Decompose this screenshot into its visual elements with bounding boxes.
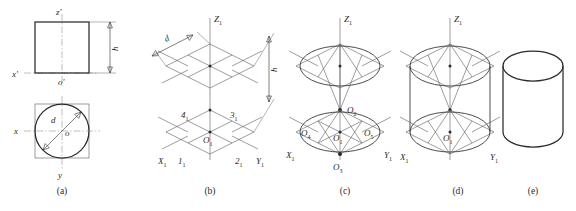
- label-z1-b: Z1: [214, 14, 222, 26]
- dim-line-d-b: [152, 35, 193, 56]
- top-center-dot: [209, 65, 212, 68]
- mid-center-dot: [209, 109, 212, 112]
- top-constr-4-c: [340, 44, 362, 77]
- top-axis-stub-left: [158, 51, 188, 66]
- label-x1-b: X1: [157, 156, 167, 168]
- top-axis-stub-right: [232, 51, 262, 66]
- o3-dot-c: [338, 152, 342, 156]
- label-point-4-b: 41: [181, 110, 189, 122]
- label-x1-c: X1: [285, 150, 295, 162]
- label-z1-d: Z1: [454, 14, 462, 26]
- label-o2-c: O2: [347, 105, 357, 117]
- label-o: o: [65, 128, 70, 138]
- cylinder-bottom-arc: [503, 132, 563, 147]
- top-constr-2-c: [340, 55, 362, 110]
- label-y1-c: Y1: [384, 150, 392, 162]
- label-x: x: [13, 126, 18, 136]
- top-constr-3-d: [428, 44, 450, 77]
- bottom-constr-4-d: [450, 121, 472, 154]
- ext-h-b-bottom: [254, 99, 274, 132]
- label-y: y: [57, 170, 62, 180]
- top-axis-stub-left-d: [400, 51, 428, 66]
- top-axis-stub-lower-right: [232, 70, 258, 83]
- bottom-axis-stub-lower-right: [232, 136, 258, 149]
- top-constr-2-d: [450, 55, 472, 110]
- label-o3-c: O3: [333, 162, 343, 174]
- label-z-prime: z': [55, 7, 63, 17]
- bottom-center-dot: [209, 131, 212, 134]
- top-constr-3-c: [318, 44, 340, 77]
- panel-b: Z1 X1 Y1 O1 11 21 31 41 d h: [140, 0, 290, 182]
- panel-e: [490, 0, 576, 182]
- panel-a: z' x' o' h x y o d: [0, 0, 140, 182]
- label-point-3-b: 31: [229, 110, 238, 122]
- top-constr-4-d: [450, 44, 472, 77]
- label-o5-c: O5: [364, 128, 374, 140]
- label-y1-b: Y1: [256, 156, 264, 168]
- panel-c: Z1 O2 O4 O1 O5 O3 X1 Y1: [285, 0, 405, 182]
- cylinder-top-ellipse: [503, 51, 563, 81]
- label-h-b: h: [269, 67, 279, 72]
- label-z1-c: Z1: [344, 14, 352, 26]
- top-center-dot-c: [339, 65, 342, 68]
- label-o-prime: o': [58, 77, 66, 87]
- caption-c: (c): [325, 186, 365, 196]
- top-axis-stub-right-c: [362, 51, 391, 66]
- caption-b: (b): [190, 186, 230, 196]
- ext-h-b-top: [254, 33, 274, 66]
- label-d: d: [51, 115, 56, 125]
- ext-d-b-2: [197, 32, 210, 44]
- caption-d: (d): [438, 186, 478, 196]
- top-axis-stub-left-c: [289, 51, 318, 66]
- label-o1-c: O1: [333, 133, 343, 145]
- label-d-b: d: [162, 33, 171, 44]
- label-h: h: [110, 46, 120, 51]
- top-axis-stub-lower-left: [162, 70, 188, 83]
- label-point-1-b: 11: [178, 156, 186, 168]
- top-constr-1-c: [318, 55, 340, 110]
- caption-e: (e): [513, 186, 553, 196]
- bottom-constr-2-d: [450, 110, 472, 143]
- bottom-axis-stub-lower-left: [162, 136, 188, 149]
- bottom-axis-stub-left-d: [400, 117, 428, 132]
- label-x-prime: x': [11, 69, 19, 79]
- top-center-dot-d: [449, 65, 452, 68]
- caption-a: (a): [42, 186, 82, 196]
- label-point-2-b: 21: [235, 156, 243, 168]
- label-o4-c: O4: [301, 128, 311, 140]
- label-o1-d: O1: [443, 133, 453, 145]
- label-x1-d: X1: [400, 152, 409, 164]
- figure-root: z' x' o' h x y o d: [0, 0, 576, 211]
- top-constr-1-d: [428, 55, 450, 110]
- label-o1-b: O1: [203, 135, 213, 147]
